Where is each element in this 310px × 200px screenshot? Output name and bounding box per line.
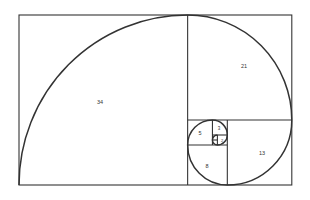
label-3: 3 <box>218 126 221 131</box>
square-grid <box>19 15 292 185</box>
label-34: 34 <box>97 99 103 105</box>
label-8: 8 <box>205 163 208 169</box>
square-labels: 34 21 13 8 5 3 2 <box>97 63 265 169</box>
label-13: 13 <box>259 150 265 156</box>
label-21: 21 <box>241 63 247 69</box>
golden-spiral <box>19 15 292 185</box>
outer-rectangle <box>19 15 292 185</box>
label-5: 5 <box>198 130 201 136</box>
fibonacci-diagram: 34 21 13 8 5 3 2 <box>0 0 310 200</box>
